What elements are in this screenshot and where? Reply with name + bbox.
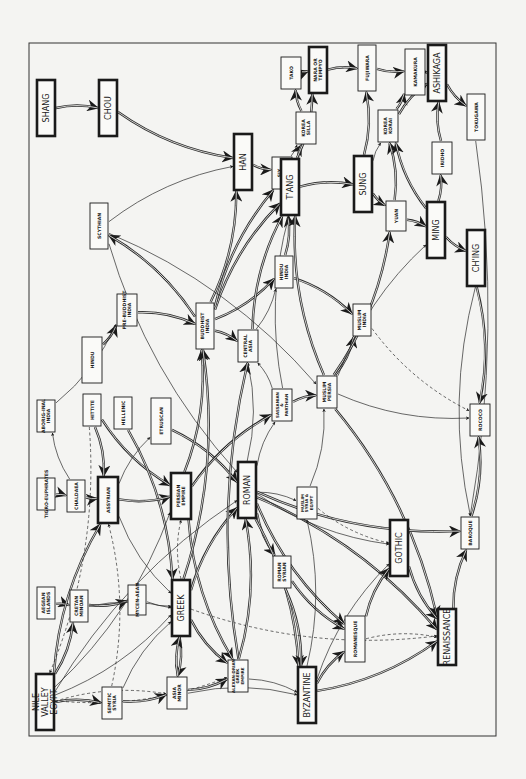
influence-edge-muslim_persia-to-rococo (338, 394, 469, 418)
influence-edge-inner (256, 519, 299, 666)
influence-edge-roman-to-sasanian (257, 422, 275, 466)
node-layer: SHANGCHOUHANSCYTHIANSIXDYNASTIEST'ANGTAK… (32, 45, 490, 730)
influence-edge-central_asia-to-hindu_india (256, 289, 275, 329)
node-label: SHANG (42, 94, 51, 123)
influence-edge-yuan-to-ming (407, 220, 426, 227)
node-label: IRIDHO (440, 149, 445, 168)
node-nile-valley: NILEVALLEYEGYPT (32, 674, 59, 730)
influence-edge-ming-to-korea_koryo (396, 143, 426, 208)
node-label: MYCEN-AEAN (135, 583, 140, 617)
node-ming: MING (427, 202, 445, 258)
node-label: T'ANG (286, 175, 295, 201)
node-label: HELLENIC (121, 400, 126, 426)
influence-edge-pre_buddhist_india-to-buddhist_india (138, 312, 195, 324)
node-han: HAN (234, 134, 252, 190)
influence-edge-roman-to-romanesque (257, 504, 344, 624)
node-gothic: GOTHIC (390, 520, 408, 576)
node-label: RENAISSANCE (443, 609, 452, 666)
node-scythian: SCYTHIAN (90, 203, 108, 249)
influence-edge-inner (184, 350, 202, 472)
node-label: ASSYRIAN (106, 487, 111, 513)
node-label: ROMANSYRIAN (277, 562, 287, 582)
influence-edge-sung-to-korea_koryo (373, 143, 381, 161)
influence-edge-baroque-to-rococo (472, 437, 481, 516)
influence-edge-buddhist_india-to-central_asia (215, 331, 237, 341)
node-muslim-persia: MUSLIMPERSIA (317, 376, 337, 408)
node-tokugawa: TOKUGAWA (467, 94, 485, 140)
influence-edge-romanesque-to-renaissance (366, 634, 437, 639)
influence-edge-tokugawa-to-baroque (470, 141, 488, 516)
node-hindu: HINDU (82, 337, 102, 383)
influence-edge-ching-to-baroque (459, 287, 475, 516)
node-yuan: YUAN (386, 201, 406, 231)
influence-edge-semitic_syria-to-greek (123, 622, 171, 688)
influence-edge-inner (118, 112, 233, 158)
node-label: ETRUSCAN (159, 407, 164, 435)
node-buddhist-india: BUDDHISTINDIA (196, 303, 214, 349)
influence-edge-scythian-to-roman (109, 244, 237, 472)
influence-edge-korea_silla-to-tako (296, 90, 302, 111)
influence-edge-han-to-six_dynasties (253, 165, 271, 170)
influence-edge-chou-to-han (118, 112, 233, 158)
influence-edge-muslim_persia-to-tang (295, 216, 324, 375)
node-central-asia: CENTRALASIA (238, 330, 258, 362)
influence-edge-assyrian-to-greek (119, 516, 171, 593)
influence-edge-gothic-to-renaissance (409, 567, 437, 619)
influence-edge-inner (215, 203, 280, 309)
node-label: TAKO (289, 66, 294, 80)
node-cretan-minoan: CRETANMINOAN (70, 590, 88, 622)
node-label: PERSIANEMPIRE (176, 485, 186, 508)
node-korea-silla: KOREASILLA (296, 112, 316, 144)
node-sasanian: SASSANIAN&PARTHIAN (272, 389, 292, 421)
node-label: CHOU (104, 96, 113, 120)
node-chaldaea: CHALDAEA (67, 480, 85, 512)
diagram-frame (29, 43, 496, 736)
node-label: BYZANTINE (303, 672, 312, 717)
node-sung: SUNG (354, 156, 372, 212)
node-label: KAMAKURA (413, 57, 418, 87)
influence-edge-inner (409, 567, 437, 619)
node-etruscan: ETRUSCAN (151, 398, 171, 444)
node-tigro-euphrates: TIGRO-EUPHRATES (37, 470, 55, 518)
node-iridho: IRIDHO (432, 142, 452, 174)
influence-edge-inner (95, 427, 104, 476)
node-label: ROMANESQUE (353, 621, 358, 658)
influence-edge-chaldaea-to-aboriginal_india (52, 433, 69, 479)
node-label: TOKUGAWA (474, 102, 479, 132)
influence-diagram: SHANGCHOUHANSCYTHIANSIXDYNASTIEST'ANGTAK… (0, 0, 526, 779)
node-nara: NARA ORTEMPYO (309, 47, 327, 93)
node-roman: ROMAN (238, 462, 256, 518)
node-label: ROCOCO (478, 409, 483, 431)
influence-edge-renaissance-to-baroque (453, 550, 466, 608)
node-label: KOREAKORAI (383, 117, 393, 135)
node-aegean-islands: AEGEANISLANDS (37, 587, 55, 619)
node-roman-syrian: ROMANSYRIAN (273, 556, 291, 588)
node-label: MUSLIMPERSIA (322, 381, 332, 402)
influence-edge-yuan-to-korea_koryo (390, 143, 396, 200)
influence-edge-sasanian-to-central_asia (258, 363, 272, 388)
influence-edge-muslim_india-to-rococo (372, 329, 469, 411)
node-byzantine: BYZANTINE (298, 667, 316, 723)
node-label: TIGRO-EUPHRATES (44, 470, 49, 518)
node-fujiwara: FUJIWARA (358, 45, 376, 91)
influence-edge-muslim_syria-to-muslim_persia (310, 409, 324, 486)
node-label: BAROQUE (468, 520, 473, 545)
node-alexandrian: ALEXAN-DRIANGREEKEMPIRE (228, 659, 248, 693)
node-pre-buddhist-india: PRE-BUDDHISTINDIA (117, 290, 137, 330)
node-label: HINDU (90, 351, 95, 368)
node-label: FUJIWARA (365, 55, 370, 81)
node-ching: CH'ING (467, 230, 485, 286)
node-ashikaga: ASHIKAGA (428, 45, 446, 101)
node-muslim-syria: MUSLIMSYRIA &EGYPT (297, 487, 317, 519)
influence-edge-sung-to-yuan (373, 194, 385, 206)
node-label: HITTITE (90, 400, 95, 420)
diagram-canvas: SHANGCHOUHANSCYTHIANSIXDYNASTIEST'ANGTAK… (0, 0, 526, 779)
node-label: KOREASILLA (301, 119, 311, 137)
node-label: GREEK (177, 594, 186, 622)
node-korea-koryo: KOREAKORAI (378, 110, 398, 142)
influence-edge-ming-to-ching (446, 237, 466, 251)
influence-edge-greek-to-persian_empire (177, 520, 181, 579)
influence-edge-sasanian-to-muslim_persia (293, 395, 316, 402)
node-tang: T'ANG (281, 159, 299, 215)
node-hindu-india: HINDUINDIA (275, 256, 293, 288)
